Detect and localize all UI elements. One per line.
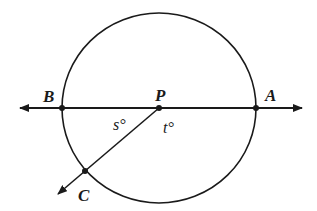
point-a <box>253 105 259 111</box>
label-a: A <box>264 86 276 105</box>
angle-t-label: t° <box>163 119 174 136</box>
label-p: P <box>154 86 166 105</box>
circle-diagram: B P A C s° t° <box>0 0 317 211</box>
label-c: C <box>78 186 90 205</box>
point-c <box>82 168 88 174</box>
point-p <box>156 105 162 111</box>
point-b <box>59 105 65 111</box>
label-b: B <box>42 87 54 106</box>
angle-s-label: s° <box>113 116 126 133</box>
